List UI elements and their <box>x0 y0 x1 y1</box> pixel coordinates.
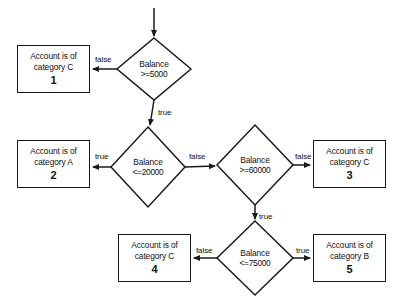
decision-shape-balance-75000 <box>217 221 293 295</box>
result-box-text: Account is of category C <box>131 240 178 262</box>
edge-label-d4-true: true <box>296 246 309 255</box>
edge-d2-false-to-d3 <box>185 166 215 167</box>
edge-label-d2-true: true <box>95 152 108 161</box>
edge-label-d2-false: false <box>189 152 205 161</box>
edge-d1-true-to-d2 <box>150 100 154 125</box>
edge-label-d1-false: false <box>95 55 111 64</box>
result-box-number: 5 <box>346 263 352 276</box>
result-box-text: Account is of category A <box>30 146 77 168</box>
result-box-text: Account is of category C <box>326 146 373 168</box>
result-box-2[interactable]: Account is of category A 2 <box>17 140 90 188</box>
edge-label-d3-true: true <box>259 212 272 221</box>
result-box-number: 2 <box>50 169 56 182</box>
decision-shape-balance-60000 <box>217 125 293 205</box>
result-box-number: 4 <box>151 263 157 276</box>
result-box-4[interactable]: Account is of category C 4 <box>118 234 191 282</box>
result-box-5[interactable]: Account is of category B 5 <box>313 234 386 282</box>
decision-shape-balance-20000 <box>111 127 185 207</box>
edge-label-d3-false: false <box>295 152 311 161</box>
result-box-text: Account is of category C <box>30 51 77 73</box>
result-box-3[interactable]: Account is of category C 3 <box>313 140 386 188</box>
result-box-number: 1 <box>50 74 56 87</box>
flowchart-canvas: Balance >=5000 Balance <=20000 Balance >… <box>0 0 400 303</box>
result-box-1[interactable]: Account is of category C 1 <box>17 45 90 93</box>
edge-label-d4-false: false <box>196 246 212 255</box>
result-box-text: Account is of category B <box>326 240 373 262</box>
result-box-number: 3 <box>346 169 352 182</box>
edge-label-d1-true: true <box>158 108 171 117</box>
decision-shape-balance-5000 <box>117 38 191 100</box>
